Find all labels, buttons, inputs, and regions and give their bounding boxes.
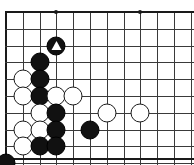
grid-line-vertical [174, 11, 175, 165]
grid-line-vertical [5, 11, 7, 165]
grid-line-horizontal [5, 46, 194, 47]
grid-line-vertical [140, 11, 141, 165]
star-point [54, 10, 58, 14]
grid-line-vertical [90, 11, 91, 165]
black-stone[interactable] [47, 137, 66, 156]
grid-line-vertical [157, 11, 158, 165]
grid-line-horizontal [5, 11, 194, 13]
grid-line-vertical [191, 11, 192, 165]
board-bottom-edge [5, 158, 194, 160]
grid-line-vertical [124, 11, 125, 165]
go-board [0, 0, 194, 165]
grid-line-horizontal [5, 163, 194, 164]
grid-line-horizontal [5, 29, 194, 30]
grid-line-vertical [107, 11, 108, 165]
black-stone[interactable] [81, 120, 100, 139]
black-stone[interactable] [0, 154, 16, 165]
star-point [138, 10, 142, 14]
white-stone[interactable] [64, 87, 83, 106]
white-stone[interactable] [97, 103, 116, 122]
triangle-mark-icon [51, 41, 61, 50]
white-stone[interactable] [131, 103, 150, 122]
black-stone-marked-triangle[interactable] [47, 36, 66, 55]
